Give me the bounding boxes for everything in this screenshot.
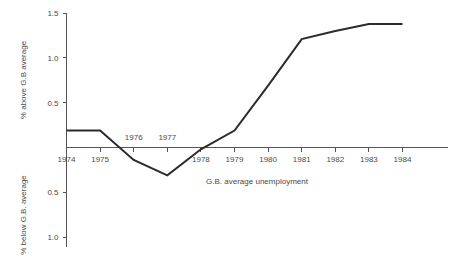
- y-tick-label-upper-1.5: 1.5: [47, 9, 59, 18]
- y-axis-lower-ticks: 0.51.0: [47, 188, 66, 242]
- x-tick-label-1981: 1981: [293, 155, 311, 164]
- x-tick-label-1983: 1983: [360, 155, 378, 164]
- x-tick-label-1975: 1975: [91, 155, 109, 164]
- x-tick-label-1984: 1984: [394, 155, 412, 164]
- y-axis-upper-ticks: 1.51.00.5: [47, 9, 66, 108]
- x-tick-label-1976: 1976: [125, 133, 143, 142]
- series-line-deviation: [67, 24, 403, 175]
- x-tick-label-1979: 1979: [226, 155, 244, 164]
- x-tick-label-1982: 1982: [326, 155, 344, 164]
- x-tick-label-1980: 1980: [259, 155, 277, 164]
- y-tick-label-upper-1.0: 1.0: [47, 54, 59, 63]
- x-tick-label-1978: 1978: [192, 155, 210, 164]
- deviation-line-chart: 1.51.00.5 0.51.0 19741975197619771978197…: [0, 0, 459, 266]
- y-tick-label-lower-0.5: 0.5: [47, 188, 59, 197]
- chart-container: 1.51.00.5 0.51.0 19741975197619771978197…: [0, 0, 459, 266]
- y-tick-label-lower-1.0: 1.0: [47, 233, 59, 242]
- x-axis-title: G.B. average unemployment: [206, 177, 309, 186]
- y-axis-title-upper: % above G.B average: [19, 40, 28, 119]
- x-axis-ticks: [67, 148, 403, 152]
- y-tick-label-upper-0.5: 0.5: [47, 99, 59, 108]
- x-tick-label-1977: 1977: [158, 133, 176, 142]
- y-axis-title-lower: % below G.B. average: [19, 175, 28, 255]
- x-tick-label-1974: 1974: [58, 155, 76, 164]
